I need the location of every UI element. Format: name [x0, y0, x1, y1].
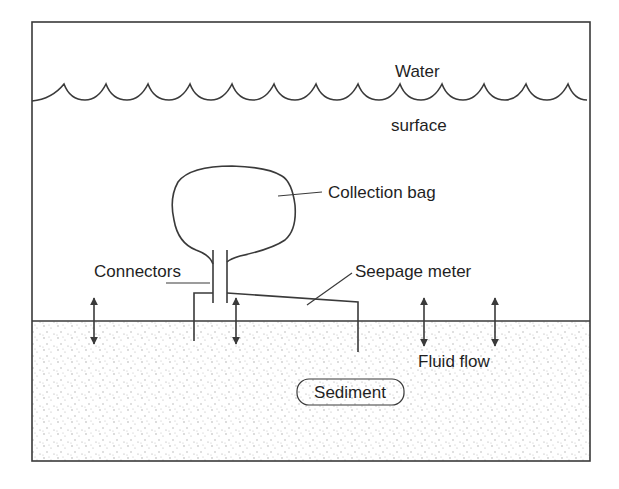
- label-connectors: Connectors: [94, 262, 181, 281]
- sediment-layer: [32, 321, 590, 461]
- label-sediment: Sediment: [314, 383, 386, 402]
- seepage-meter-diagram: Water surface Collection bag Connectors …: [0, 0, 619, 489]
- water-surface-waves: [32, 84, 587, 101]
- label-seepage-meter: Seepage meter: [355, 262, 472, 281]
- label-water: Water: [395, 62, 440, 81]
- collection-bag: [172, 166, 295, 264]
- label-surface: surface: [391, 116, 447, 135]
- collection-bag-leader: [278, 192, 322, 196]
- label-fluid-flow: Fluid flow: [418, 352, 491, 371]
- label-collection-bag: Collection bag: [328, 183, 436, 202]
